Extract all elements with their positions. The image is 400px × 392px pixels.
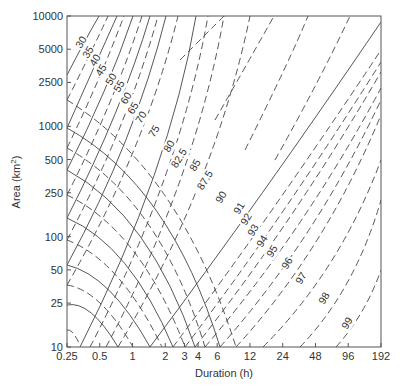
y-tick-label: 50 (51, 264, 63, 276)
contour-label: 99 (338, 315, 354, 331)
contour-chart: 303540455055606570758082.58587.590919293… (0, 0, 400, 392)
contour-line-upper-b (215, 16, 274, 120)
contour-line-87-5 (118, 16, 250, 347)
contour-line-upper-a (180, 16, 224, 60)
contour-line-92 (185, 62, 381, 347)
contour-line-82-5 (90, 16, 208, 347)
y-tick-label: 5000 (39, 43, 63, 55)
x-tick-label: 96 (342, 350, 354, 362)
contour-line-unlabeled-h (67, 170, 195, 347)
x-tick-label: 0.25 (56, 350, 77, 362)
contour-line-97 (263, 160, 381, 347)
contour-label: 85 (186, 157, 202, 173)
x-tick-label: 3 (181, 350, 187, 362)
x-tick-label: 1 (129, 350, 135, 362)
x-tick-label: 6 (214, 350, 220, 362)
x-tick-label: 2 (162, 350, 168, 362)
contour-line-99 (336, 270, 381, 347)
y-axis-title: Area (km2) (9, 156, 23, 209)
y-tick-label: 100 (45, 231, 63, 243)
y-tick-label: 2500 (39, 76, 63, 88)
contour-line-unlabeled-b (67, 305, 118, 347)
x-axis-title: Duration (h) (195, 367, 253, 379)
contour-line-93 (195, 72, 381, 347)
contour-line-upper-c (245, 16, 308, 150)
y-tick-label: 250 (45, 187, 63, 199)
x-tick-label: 192 (372, 350, 390, 362)
contour-line-unlabeled-a (67, 330, 80, 345)
y-tick-label: 1000 (39, 120, 63, 132)
y-tick-label: 10000 (32, 10, 63, 22)
contour-line-upper-d (275, 16, 350, 160)
contour-label: 90 (212, 189, 228, 205)
y-axis-ticks: 10255010025050010002500500010000 (32, 10, 71, 353)
contour-label: 97 (292, 270, 308, 286)
contour-line-unlabeled-c (67, 285, 133, 347)
plot-frame (67, 16, 381, 347)
x-tick-label: 24 (277, 350, 289, 362)
x-tick-label: 0.5 (92, 350, 107, 362)
contour-label: 98 (315, 290, 331, 306)
contour-label: 75 (145, 123, 161, 139)
y-tick-label: 500 (45, 154, 63, 166)
contour-label: 96 (278, 255, 294, 271)
contour-line-unlabeled-f (67, 218, 173, 347)
x-tick-label: 4 (195, 350, 201, 362)
contour-lines (67, 16, 381, 347)
x-tick-label: 12 (244, 350, 256, 362)
x-tick-label: 48 (309, 350, 321, 362)
y-tick-label: 25 (51, 297, 63, 309)
